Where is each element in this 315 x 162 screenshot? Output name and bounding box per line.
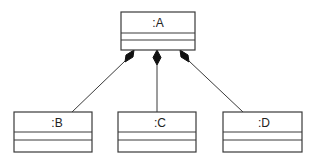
composition-link-a-d	[180, 50, 243, 112]
filled-diamond-icon	[180, 50, 189, 62]
object-box-c[interactable]: :C	[118, 112, 196, 152]
uml-diagram: :A :B :C :D	[0, 0, 315, 162]
filled-diamond-icon	[153, 50, 161, 65]
object-box-b[interactable]: :B	[14, 112, 92, 152]
object-box-a[interactable]: :A	[121, 12, 195, 50]
object-name-a: :A	[152, 16, 163, 30]
object-box-d[interactable]: :D	[223, 112, 302, 152]
object-name-b: :B	[51, 116, 62, 130]
composition-link-a-b	[72, 50, 134, 112]
object-name-c: :C	[154, 116, 166, 130]
composition-link-a-c	[153, 50, 161, 112]
object-name-d: :D	[258, 116, 270, 130]
filled-diamond-icon	[125, 50, 134, 62]
